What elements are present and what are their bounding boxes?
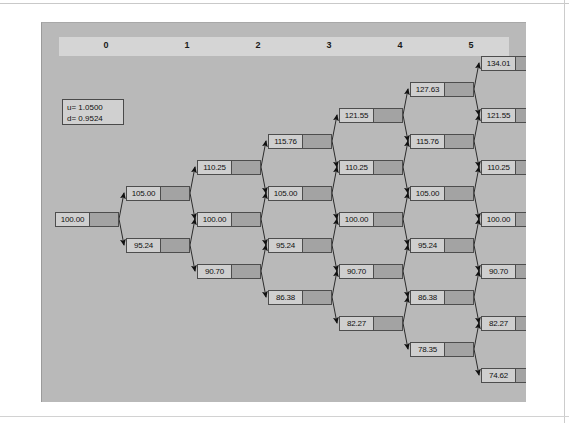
tree-node-payoff-cell bbox=[516, 265, 526, 278]
tree-node: 100.00 bbox=[55, 212, 119, 227]
tree-node-value: 127.63 bbox=[411, 83, 445, 96]
tree-node: 86.38 bbox=[268, 290, 332, 305]
scan-edge-right bbox=[564, 0, 565, 423]
tree-edge bbox=[474, 89, 479, 115]
tree-node-value: 86.38 bbox=[269, 291, 303, 304]
tree-node-value: 100.00 bbox=[56, 213, 90, 226]
tree-edge bbox=[332, 271, 337, 297]
tree-node-value: 95.24 bbox=[269, 239, 303, 252]
tree-node: 115.76 bbox=[410, 134, 474, 149]
tree-node-value: 95.24 bbox=[411, 239, 445, 252]
tree-node-value: 115.76 bbox=[411, 135, 445, 148]
tree-node-payoff-cell bbox=[516, 317, 526, 330]
tree-node-payoff-cell bbox=[374, 161, 402, 174]
tree-node: 95.24 bbox=[410, 238, 474, 253]
tree-edge bbox=[332, 115, 337, 141]
tree-edge bbox=[403, 115, 408, 141]
page: 0 1 2 3 4 5 6 u= 1.0500 d= 0.9524 100.00… bbox=[0, 0, 569, 423]
tree-edge bbox=[474, 271, 479, 297]
step-header-0: 0 bbox=[94, 40, 118, 50]
tree-node-value: 110.25 bbox=[482, 161, 516, 174]
tree-edge bbox=[261, 219, 266, 245]
tree-node-payoff-cell bbox=[445, 239, 473, 252]
tree-edge bbox=[332, 193, 337, 219]
tree-node-value: 86.38 bbox=[411, 291, 445, 304]
tree-edge bbox=[261, 167, 266, 193]
tree-node: 105.00 bbox=[410, 186, 474, 201]
parameters-legend: u= 1.0500 d= 0.9524 bbox=[62, 99, 124, 125]
tree-node: 121.55 bbox=[481, 108, 526, 123]
tree-edge bbox=[403, 297, 408, 323]
tree-node: 121.55 bbox=[339, 108, 403, 123]
tree-node: 100.00 bbox=[481, 212, 526, 227]
tree-edge bbox=[474, 63, 479, 89]
tree-node-payoff-cell bbox=[374, 213, 402, 226]
tree-node: 82.27 bbox=[481, 316, 526, 331]
tree-node-payoff-cell bbox=[445, 135, 473, 148]
tree-edge bbox=[332, 167, 337, 193]
tree-edge bbox=[190, 245, 195, 271]
tree-node-payoff-cell bbox=[516, 161, 526, 174]
tree-edge bbox=[474, 167, 479, 193]
tree-node-payoff-cell bbox=[303, 291, 331, 304]
tree-edge bbox=[261, 245, 266, 271]
tree-node: 105.00 bbox=[126, 186, 190, 201]
tree-node: 110.25 bbox=[339, 160, 403, 175]
tree-node-payoff-cell bbox=[374, 317, 402, 330]
tree-edge bbox=[190, 193, 195, 219]
tree-edge bbox=[261, 141, 266, 167]
figure-canvas: 0 1 2 3 4 5 6 u= 1.0500 d= 0.9524 100.00… bbox=[41, 22, 526, 402]
tree-node-payoff-cell bbox=[516, 213, 526, 226]
tree-edge bbox=[474, 193, 479, 219]
tree-edge bbox=[474, 219, 479, 245]
tree-node-value: 82.27 bbox=[482, 317, 516, 330]
step-header-strip: 0 1 2 3 4 5 6 bbox=[59, 37, 509, 56]
tree-node-payoff-cell bbox=[374, 109, 402, 122]
tree-edge bbox=[261, 271, 266, 297]
step-header-2: 2 bbox=[246, 40, 270, 50]
tree-edge bbox=[403, 219, 408, 245]
tree-node-value: 100.00 bbox=[482, 213, 516, 226]
tree-node-payoff-cell bbox=[516, 57, 526, 70]
tree-node: 100.00 bbox=[197, 212, 261, 227]
tree-node: 105.00 bbox=[268, 186, 332, 201]
tree-node: 90.70 bbox=[481, 264, 526, 279]
tree-node-value: 115.76 bbox=[269, 135, 303, 148]
tree-node: 95.24 bbox=[268, 238, 332, 253]
tree-edge bbox=[474, 349, 479, 375]
tree-node-value: 105.00 bbox=[127, 187, 161, 200]
tree-node: 110.25 bbox=[481, 160, 526, 175]
tree-edge bbox=[332, 219, 337, 245]
tree-node: 95.24 bbox=[126, 238, 190, 253]
tree-edge bbox=[403, 141, 408, 167]
tree-node-payoff-cell bbox=[303, 239, 331, 252]
tree-node-value: 110.25 bbox=[340, 161, 374, 174]
step-header-6: 6 bbox=[525, 40, 526, 50]
step-header-4: 4 bbox=[388, 40, 412, 50]
tree-node: 127.63 bbox=[410, 82, 474, 97]
scan-edge-top bbox=[0, 3, 569, 4]
tree-node: 74.62 bbox=[481, 368, 526, 383]
legend-down-factor: d= 0.9524 bbox=[67, 113, 119, 124]
tree-edge bbox=[403, 323, 408, 349]
tree-node-payoff-cell bbox=[232, 161, 260, 174]
tree-node-payoff-cell bbox=[445, 83, 473, 96]
tree-edge bbox=[332, 141, 337, 167]
tree-node-value: 90.70 bbox=[198, 265, 232, 278]
tree-edge bbox=[190, 167, 195, 193]
tree-node-value: 100.00 bbox=[340, 213, 374, 226]
step-header-5: 5 bbox=[459, 40, 483, 50]
tree-node-value: 90.70 bbox=[482, 265, 516, 278]
tree-node-payoff-cell bbox=[445, 291, 473, 304]
tree-node-value: 105.00 bbox=[269, 187, 303, 200]
tree-node-value: 95.24 bbox=[127, 239, 161, 252]
tree-edge bbox=[119, 219, 124, 245]
tree-node-value: 121.55 bbox=[482, 109, 516, 122]
tree-node-payoff-cell bbox=[516, 369, 526, 382]
tree-node-payoff-cell bbox=[161, 187, 189, 200]
tree-edge bbox=[474, 323, 479, 349]
tree-edge bbox=[474, 297, 479, 323]
tree-node-payoff-cell bbox=[374, 265, 402, 278]
tree-edge bbox=[332, 245, 337, 271]
tree-node: 90.70 bbox=[339, 264, 403, 279]
